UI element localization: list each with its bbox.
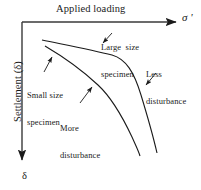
annotation-less-disturbance-line1: Less	[146, 70, 186, 79]
x-axis-symbol: σ '	[182, 12, 193, 24]
annotation-more-disturbance-line2: disturbance	[60, 151, 100, 160]
annotation-more-disturbance-line1: More	[60, 124, 100, 133]
y-axis-label: Settlement (δ)	[12, 42, 23, 142]
load-settlement-diagram: Applied loading σ ' Settlement (δ) δ Lar…	[0, 0, 201, 190]
annotation-less-disturbance-line2: disturbance	[146, 97, 186, 106]
annotation-large-size-specimen-line1: Large size	[101, 43, 139, 52]
annotation-large-size-specimen-line2: specimen	[101, 70, 139, 79]
leader-more-disturbance	[80, 87, 92, 103]
chart-title: Applied loading	[56, 3, 125, 14]
annotation-more-disturbance: More disturbance	[60, 106, 100, 177]
annotation-small-size-specimen-line1: Small size	[27, 91, 63, 100]
annotation-small-size-specimen-line2: specimen	[27, 118, 63, 127]
leader-small-size	[44, 57, 52, 72]
annotation-less-disturbance: Less disturbance	[146, 52, 186, 123]
annotation-small-size-specimen: Small size specimen	[27, 73, 63, 144]
annotation-large-size-specimen: Large size specimen	[101, 25, 139, 96]
y-axis-symbol: δ	[22, 170, 27, 181]
